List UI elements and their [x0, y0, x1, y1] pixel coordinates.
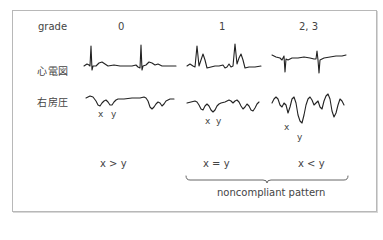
ra-pressure-wave-grade-1 — [185, 96, 270, 118]
noncompliant-pattern-label: noncompliant pattern — [217, 187, 325, 199]
grade-1-label: 1 — [219, 21, 225, 33]
relation-grade-0: x > y — [100, 158, 127, 170]
ra-grade-2-3-y-marker: y — [297, 131, 302, 143]
ra-pressure-wave-grade-2-3 — [270, 93, 355, 129]
ecg-wave-grade-0 — [84, 44, 179, 76]
grade-0-label: 0 — [118, 21, 124, 33]
grade-header-label: grade — [38, 21, 67, 33]
relation-grade-2-3: x < y — [298, 158, 325, 170]
ecg-row-label: 心電図 — [37, 66, 69, 78]
ra-grade-1-y-marker: y — [216, 115, 221, 127]
ra-grade-0-x-marker: x — [98, 108, 103, 120]
grade-2-3-label: 2, 3 — [299, 21, 318, 33]
ecg-wave-grade-2-3 — [270, 50, 355, 80]
relation-grade-1: x = y — [203, 158, 230, 170]
ra-grade-1-x-marker: x — [205, 115, 210, 127]
ra-grade-0-y-marker: y — [111, 108, 116, 120]
ecg-wave-grade-1 — [185, 42, 270, 76]
ra-pressure-row-label: 右房圧 — [37, 97, 69, 109]
noncompliant-bracket — [184, 175, 350, 185]
ra-grade-2-3-x-marker: x — [284, 121, 289, 133]
